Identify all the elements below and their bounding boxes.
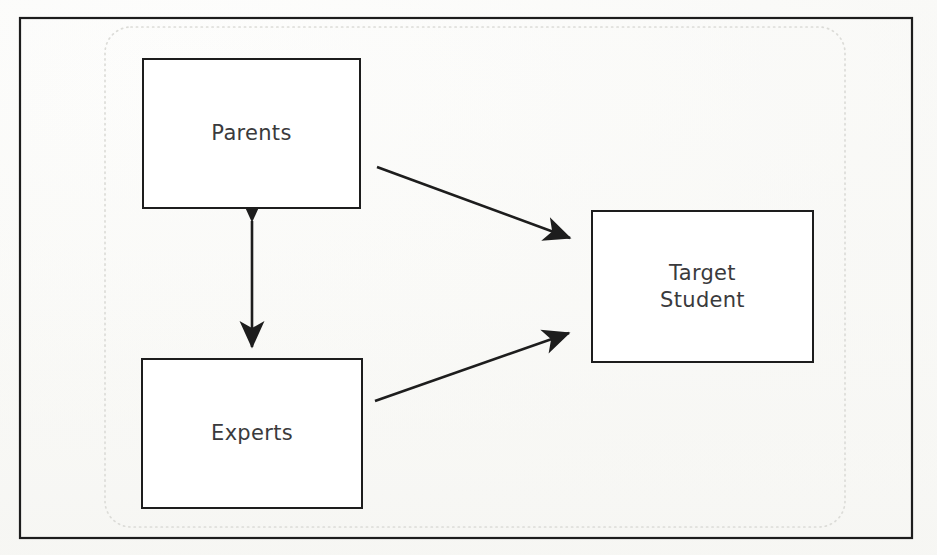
node-box-target-student[interactable]: Target Student [591, 210, 814, 363]
edge-parents-to-target [377, 167, 570, 238]
diagram-page: Parents Experts Target Student [0, 0, 937, 555]
node-box-parents[interactable]: Parents [142, 58, 361, 209]
node-label-experts: Experts [211, 420, 293, 447]
edge-experts-to-target [375, 333, 569, 401]
node-label-parents: Parents [211, 120, 291, 147]
node-box-experts[interactable]: Experts [141, 358, 363, 509]
node-label-target-student: Target Student [660, 260, 745, 314]
